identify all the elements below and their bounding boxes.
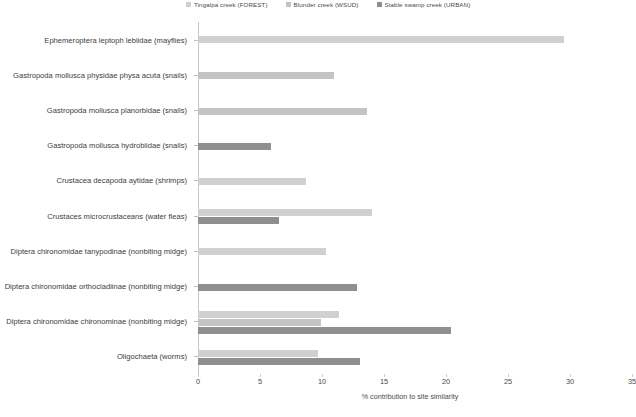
chart-legend: Tingalpa creek (FOREST) Blunder creek (W… (186, 1, 470, 8)
bar (198, 284, 357, 291)
x-axis-title: % contribution to site similarity (362, 392, 459, 401)
x-axis-tick-label: 0 (196, 377, 200, 386)
legend-swatch-forest (186, 2, 191, 7)
y-axis-label: Gastropoda mollusca physidae physa acuta… (13, 70, 187, 79)
y-axis-tick (194, 75, 198, 76)
y-axis-tick (194, 216, 198, 217)
x-axis-tick-label: 15 (380, 377, 388, 386)
x-axis-tick-label: 35 (628, 377, 636, 386)
y-axis-tick (194, 180, 198, 181)
y-axis-tick (194, 40, 198, 41)
bar (198, 36, 564, 43)
bar (198, 319, 321, 326)
y-axis-label: Crustacea decapoda aytidae (shrimps) (57, 176, 187, 185)
bar (198, 72, 334, 79)
bar (198, 217, 279, 224)
legend-swatch-wsud (286, 2, 291, 7)
legend-item-wsud: Blunder creek (WSUD) (286, 1, 359, 8)
y-axis-label: Diptera chironomidae tanypodinae (nonbit… (11, 246, 187, 255)
bar (198, 358, 360, 365)
legend-label-forest: Tingalpa creek (FOREST) (194, 1, 268, 8)
legend-item-forest: Tingalpa creek (FOREST) (186, 1, 268, 8)
legend-label-wsud: Blunder creek (WSUD) (294, 1, 359, 8)
y-axis-tick (194, 321, 198, 322)
x-axis-ticks: 05101520253035 (0, 374, 631, 394)
bar (198, 248, 326, 255)
y-axis-tick (194, 251, 198, 252)
bar (198, 327, 451, 334)
x-axis-tick-label: 5 (258, 377, 262, 386)
x-axis-tick-label: 10 (318, 377, 326, 386)
bar (198, 178, 306, 185)
y-axis-label: Ephemeroptera leptoph lebiidae (mayflies… (44, 35, 187, 44)
y-axis-tick (194, 110, 198, 111)
y-axis-label: Gastropoda mollusca hydrobiidae (snails) (47, 141, 187, 150)
y-axis-tick (194, 286, 198, 287)
x-axis-tick-label: 25 (504, 377, 512, 386)
y-axis-tick (194, 145, 198, 146)
y-axis-label: Diptera chironomidae chironominae (nonbi… (6, 317, 187, 326)
y-axis-labels: Ephemeroptera leptoph lebiidae (mayflies… (0, 22, 193, 374)
legend-swatch-urban (377, 2, 382, 7)
legend-label-urban: Stable swamp creek (URBAN) (385, 1, 471, 8)
y-axis-tick (194, 356, 198, 357)
y-axis-label: Gastropoda mollusca planorbidae (snails) (47, 106, 187, 115)
bar (198, 350, 318, 357)
bar (198, 143, 271, 150)
bar (198, 311, 339, 318)
bar (198, 108, 367, 115)
y-axis-label: Diptera chironomidae orthocladiinae (non… (5, 282, 187, 291)
legend-item-urban: Stable swamp creek (URBAN) (377, 1, 471, 8)
plot-area (198, 22, 632, 374)
x-axis-tick-label: 30 (566, 377, 574, 386)
y-axis-label: Oligochaeta (worms) (117, 352, 187, 361)
bar (198, 209, 372, 216)
y-axis-label: Crustaces microcrustaceans (water fleas) (47, 211, 187, 220)
x-axis-tick-label: 20 (442, 377, 450, 386)
